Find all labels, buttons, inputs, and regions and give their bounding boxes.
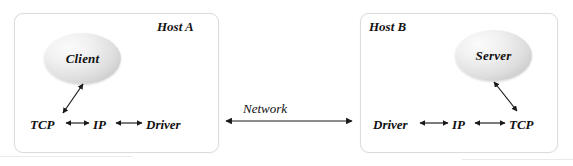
- host-b-layer-ip: IP: [452, 117, 465, 133]
- host-b-layer-tcp: TCP: [509, 117, 534, 133]
- host-a-layer-tcp: TCP: [30, 117, 55, 133]
- scan-artifact-line-right: [462, 159, 573, 160]
- client-node: Client: [44, 33, 121, 84]
- host-a-layer-ip: IP: [93, 117, 106, 133]
- host-a-layer-driver: Driver: [146, 117, 181, 133]
- host-b-layer-driver: Driver: [373, 117, 408, 133]
- network-label: Network: [243, 101, 287, 117]
- diagram-canvas: Host A Client TCP IP Driver Network Host…: [0, 0, 573, 166]
- scan-artifact-line-left: [0, 156, 132, 157]
- server-node-label: Server: [476, 48, 512, 64]
- client-node-label: Client: [66, 51, 100, 67]
- server-node: Server: [455, 30, 532, 81]
- host-a-label: Host A: [157, 19, 194, 35]
- host-b-label: Host B: [369, 19, 406, 35]
